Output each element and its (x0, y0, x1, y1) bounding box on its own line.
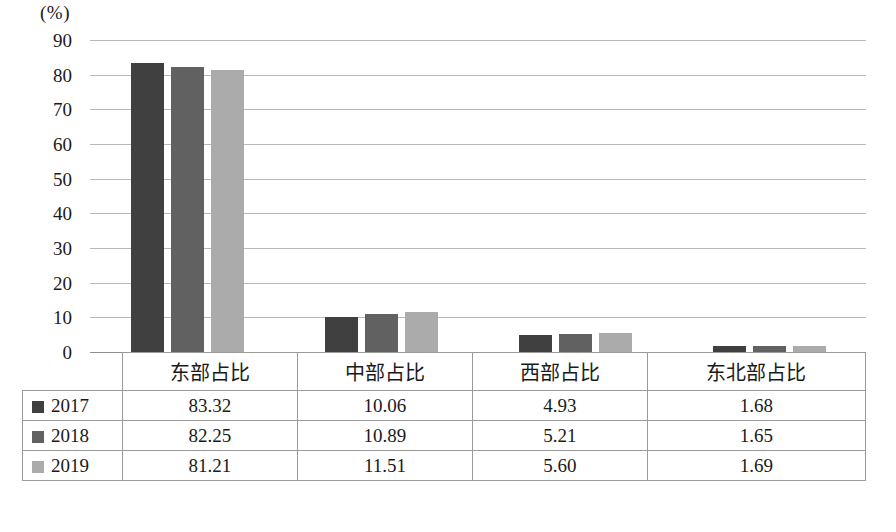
table-body: 201783.3210.064.931.68201882.2510.895.21… (23, 391, 866, 481)
bar-2017-1 (325, 317, 358, 352)
table-header-0: 东部占比 (123, 353, 298, 391)
bar-group-0 (90, 40, 284, 352)
plot-area (90, 40, 866, 352)
table-cell-2017-3: 1.68 (647, 391, 865, 421)
table-cell-2019-0: 81.21 (123, 451, 298, 481)
figure-caption (60, 508, 840, 532)
legend-swatch-icon (32, 461, 44, 473)
table-cell-2019-3: 1.69 (647, 451, 865, 481)
table-header-row: 东部占比中部占比西部占比东北部占比 (23, 353, 866, 391)
table-row: 201783.3210.064.931.68 (23, 391, 866, 421)
y-axis-tick-40: 40 (53, 204, 72, 223)
table-header-3: 东北部占比 (647, 353, 865, 391)
y-axis-tick-30: 30 (53, 239, 72, 258)
bar-group-1 (284, 40, 478, 352)
y-axis-unit-label: (%) (40, 2, 70, 24)
legend-series-label: 2018 (51, 425, 89, 447)
bar-group-2 (478, 40, 672, 352)
bar-2019-2 (599, 333, 632, 352)
table-cell-2018-3: 1.65 (647, 421, 865, 451)
y-axis-tick-50: 50 (53, 170, 72, 189)
table-cell-2018-1: 10.89 (297, 421, 472, 451)
bar-2018-2 (559, 334, 592, 352)
figure-container: (%) 9080706050403020100 东部占比中部占比西部占比东北部占… (0, 0, 896, 532)
table-row: 201981.2111.515.601.69 (23, 451, 866, 481)
table-cell-2019-1: 11.51 (297, 451, 472, 481)
y-axis-tick-60: 60 (53, 135, 72, 154)
table-cell-2018-2: 5.21 (472, 421, 647, 451)
legend-swatch-icon (32, 431, 44, 443)
y-axis-tick-80: 80 (53, 66, 72, 85)
table-cell-2017-0: 83.32 (123, 391, 298, 421)
legend-cell-2019: 2019 (23, 451, 123, 481)
table-corner-cell (23, 353, 123, 391)
table-header-1: 中部占比 (297, 353, 472, 391)
table-cell-2018-0: 82.25 (123, 421, 298, 451)
legend-series-label: 2017 (51, 395, 89, 417)
table-head: 东部占比中部占比西部占比东北部占比 (23, 353, 866, 391)
y-axis-tick-labels: 9080706050403020100 (0, 30, 82, 360)
bar-group-3 (672, 40, 866, 352)
y-axis-tick-90: 90 (53, 31, 72, 50)
y-axis-tick-10: 10 (53, 308, 72, 327)
legend-series-label: 2019 (51, 455, 89, 477)
legend-cell-2017: 2017 (23, 391, 123, 421)
bars-layer (90, 40, 866, 352)
bar-2019-1 (405, 312, 438, 352)
bar-2017-2 (519, 335, 552, 352)
table-cell-2019-2: 5.60 (472, 451, 647, 481)
data-table: 东部占比中部占比西部占比东北部占比 201783.3210.064.931.68… (22, 352, 866, 481)
table-row: 201882.2510.895.211.65 (23, 421, 866, 451)
y-axis-tick-70: 70 (53, 100, 72, 119)
legend-cell-2018: 2018 (23, 421, 123, 451)
bar-2018-1 (365, 314, 398, 352)
table-header-2: 西部占比 (472, 353, 647, 391)
bar-2018-0 (171, 67, 204, 352)
bar-2019-0 (211, 70, 244, 352)
table-cell-2017-1: 10.06 (297, 391, 472, 421)
table-cell-2017-2: 4.93 (472, 391, 647, 421)
y-axis-tick-20: 20 (53, 274, 72, 293)
legend-swatch-icon (32, 401, 44, 413)
bar-2017-0 (131, 63, 164, 352)
